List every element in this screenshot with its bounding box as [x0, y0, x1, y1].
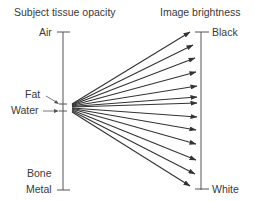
right-axis: [195, 32, 209, 190]
mapping-arrows: [72, 32, 197, 186]
opacity-brightness-diagram: [0, 0, 254, 202]
fat-pointer-arrow: [46, 96, 59, 104]
water-pointer-arrow: [43, 109, 59, 113]
